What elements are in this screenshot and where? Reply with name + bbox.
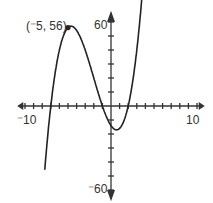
axes (17, 11, 204, 201)
y-max-label: 60 (94, 18, 108, 32)
maximum-point-label: (⁻5, 56) (26, 19, 67, 33)
y-min-label: ⁻60 (88, 182, 108, 196)
cubic-graph: (⁻5, 56) ⁻10 10 60 ⁻60 (0, 0, 213, 203)
x-max-label: 10 (186, 113, 200, 127)
x-min-label: ⁻10 (17, 113, 37, 127)
